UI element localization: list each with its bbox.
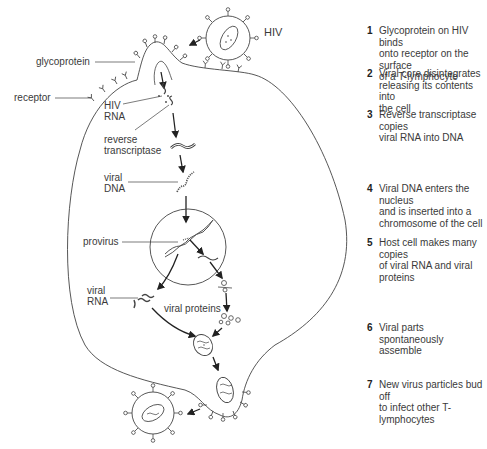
step-3: 3 Reverse transcriptase copies viral RNA… (367, 109, 485, 144)
budding-core (214, 375, 236, 404)
step-4: 4 Viral DNA enters the nucleus and is in… (367, 183, 485, 229)
label-provirus: provirus (83, 236, 119, 247)
label-receptor: receptor (14, 92, 51, 103)
step-6: 6 Viral parts spontaneously assemble (367, 322, 485, 357)
step-text: Host cell makes many copies of viral RNA… (379, 237, 485, 283)
step-text: New virus particles bud off to infect ot… (379, 379, 485, 425)
cell-membrane (68, 42, 347, 417)
label-hiv: HIV (264, 27, 282, 38)
step-text: Viral DNA enters the nucleus and is inse… (379, 183, 485, 229)
hiv-virus-released (124, 384, 183, 443)
step-number: 5 (367, 237, 373, 249)
step-7: 7 New virus particles bud off to infect … (367, 379, 485, 425)
label-viral-proteins: viral proteins (164, 303, 221, 314)
step-2: 2 Viral core disintegrates releasing its… (367, 68, 485, 114)
hiv-virus-incoming (198, 8, 259, 69)
step-text: Viral parts spontaneously assemble (379, 322, 485, 357)
step-text: Viral core disintegrates releasing its c… (379, 68, 485, 114)
label-hiv-rna: HIV RNA (104, 100, 125, 122)
step-text: Reverse transcriptase copies viral RNA i… (379, 109, 485, 144)
label-viral-rna: viral RNA (87, 285, 108, 307)
step-number: 4 (367, 183, 373, 195)
step-number: 2 (367, 68, 373, 80)
step-number: 6 (367, 322, 373, 334)
step-number: 3 (367, 109, 373, 121)
label-glycoprotein: glycoprotein (36, 56, 90, 67)
membrane-receptors (88, 61, 242, 103)
label-reverse-transcriptase: reverse transcriptase (104, 134, 161, 156)
step-number: 1 (367, 25, 373, 37)
membrane-glycoproteins (133, 35, 187, 62)
label-viral-dna: viral DNA (104, 172, 125, 194)
step-number: 7 (367, 379, 373, 391)
nucleus (150, 209, 226, 285)
step-5: 5 Host cell makes many copies of viral R… (367, 237, 485, 283)
